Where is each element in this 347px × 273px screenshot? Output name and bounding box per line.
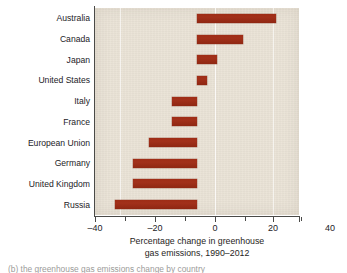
category-label-japan: Japan <box>0 55 90 65</box>
bar-australia <box>197 14 276 23</box>
bar-united-kingdom <box>133 179 197 188</box>
xtick-label-zero: 0 <box>195 223 235 234</box>
bar-france <box>172 117 198 126</box>
bar-canada <box>197 35 243 44</box>
category-label-canada: Canada <box>0 34 90 44</box>
category-label-france: France <box>0 117 90 127</box>
x-axis-title: Percentage change in greenhouse gas emis… <box>72 236 322 259</box>
category-label-russia: Russia <box>0 200 90 210</box>
xtick-label-20: 20 <box>253 223 293 234</box>
category-label-united-states: United States <box>0 75 90 85</box>
caption-partial: (b) the greenhouse gas emissions change … <box>8 264 338 273</box>
category-label-germany: Germany <box>0 158 90 168</box>
bar-italy <box>172 97 198 106</box>
x-axis-title-line2: gas emissions, 1990–2012 <box>72 248 322 260</box>
chart-figure: AustraliaCanadaJapanUnited StatesItalyFr… <box>0 0 347 273</box>
bar-united-states <box>197 76 207 85</box>
bar-russia <box>115 200 197 209</box>
bar-germany <box>133 159 197 168</box>
xtick-label-minus20: –20 <box>135 223 175 234</box>
category-label-united-kingdom: United Kingdom <box>0 179 90 189</box>
bar-japan <box>197 55 217 64</box>
category-label-australia: Australia <box>0 13 90 23</box>
category-label-european-union: European Union <box>0 138 90 148</box>
category-label-italy: Italy <box>0 96 90 106</box>
bar-european-union <box>149 138 197 147</box>
xtick-label-40: 40 <box>310 223 347 234</box>
x-axis-title-line1: Percentage change in greenhouse <box>72 236 322 248</box>
xtick-label-minus40: –40 <box>75 223 115 234</box>
